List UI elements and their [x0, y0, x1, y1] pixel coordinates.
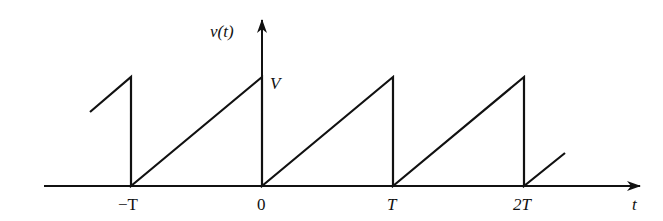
amplitude-label: V [270, 74, 283, 93]
tick-label-T: T [387, 195, 398, 214]
sawtooth-diagram: v(t) V −T 0 T 2T t [0, 0, 663, 221]
tick-label-neg-T: −T [118, 195, 139, 214]
y-axis-label: v(t) [210, 22, 234, 41]
tick-label-0: 0 [257, 195, 266, 214]
tick-label-2T: 2T [513, 195, 533, 214]
x-axis-label: t [632, 195, 638, 214]
sawtooth-waveform [90, 77, 565, 186]
